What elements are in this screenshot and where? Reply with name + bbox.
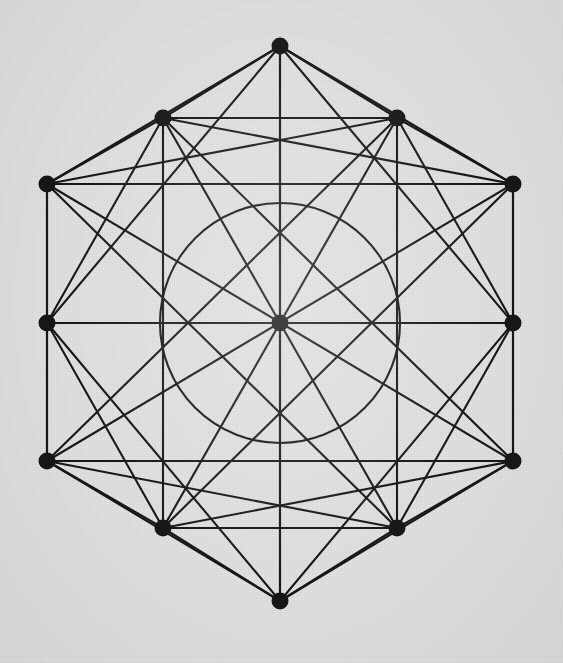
geometry-svg (0, 0, 563, 663)
geometric-figure-canvas (0, 0, 563, 663)
edge-C-UL (163, 118, 280, 323)
vertex-dot-top-apex (272, 38, 289, 55)
edge-C-DR (280, 323, 397, 528)
vertex-dot-lower-right (389, 520, 406, 537)
vertex-dot-upper-left (155, 110, 172, 127)
vertex-dot-center (272, 315, 289, 332)
edge-RB-UL (163, 118, 513, 461)
vertex-dot-upper-right (389, 110, 406, 127)
edge-C-UR (280, 118, 397, 323)
vertex-dot-lower-left (155, 520, 172, 537)
edge-C-DL (163, 323, 280, 528)
edge-DR-RM (397, 323, 513, 528)
vertex-dot-right-middle (505, 315, 522, 332)
edge-LB-UR (47, 118, 397, 461)
vertex-dot-left-bottom (39, 453, 56, 470)
vertex-dot-right-top (505, 176, 522, 193)
vertex-dot-right-bottom (505, 453, 522, 470)
edge-LT-UR (47, 118, 397, 184)
vertex-dot-bottom-apex (272, 593, 289, 610)
edge-DL-LM (47, 323, 163, 528)
edge-RT-UL (163, 118, 513, 184)
vertex-dot-left-top (39, 176, 56, 193)
vertex-dot-left-middle (39, 315, 56, 332)
